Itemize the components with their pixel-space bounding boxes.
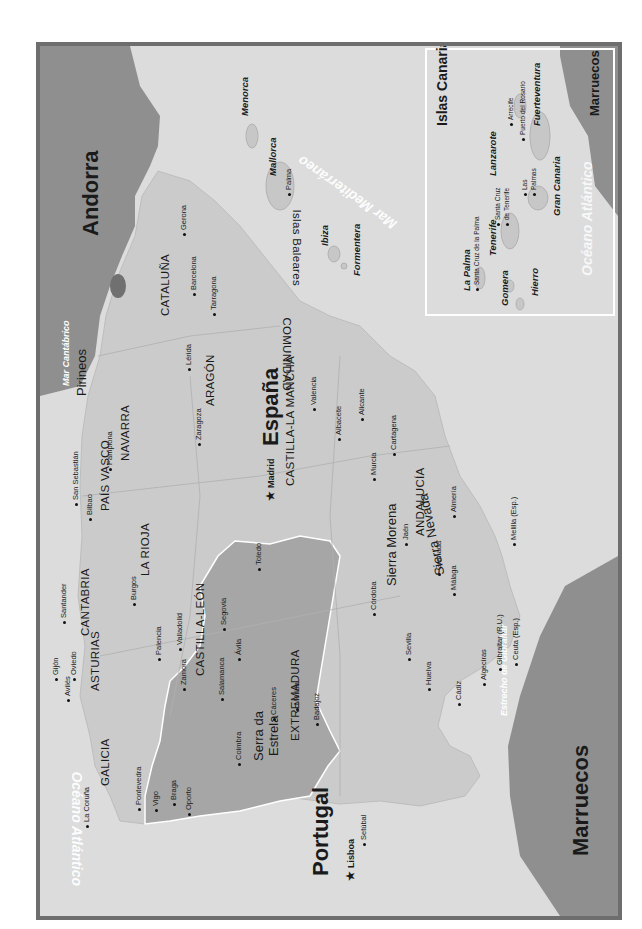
- city-puerto-del-rosario: Puerto del Rosario: [520, 81, 527, 141]
- region-la-rioja: LA RIOJA: [140, 523, 152, 576]
- city-setubal: Setúbal: [360, 815, 368, 846]
- region-aragon: ARAGÓN: [205, 354, 217, 406]
- region-cataluna: CATALUÑA: [160, 254, 172, 316]
- city-albacete: Albacete: [335, 406, 343, 441]
- island-formentera: Formentera: [352, 224, 362, 276]
- city-sevilla: Sevilla: [405, 633, 413, 661]
- city-segovia: Segovia: [220, 598, 228, 631]
- region-castilla-leon: CASTILLA-LEÓN: [195, 583, 207, 676]
- city-jaen: Jaén: [402, 524, 410, 546]
- city-algeciras: Algeciras: [480, 649, 488, 686]
- country-label-spain: España: [260, 368, 282, 446]
- city-oviedo: Oviedo: [70, 651, 78, 681]
- city-toledo: Toledo: [255, 543, 263, 571]
- city-alicante: Alicante: [358, 388, 366, 421]
- island-ibiza: Ibiza: [320, 225, 330, 246]
- region-asturias: ASTURIAS: [90, 631, 102, 691]
- city-ceuta: Ceuta (Esp.): [512, 618, 520, 666]
- city-valencia: Valencia: [310, 377, 318, 411]
- city-vigo: Vigo: [152, 791, 160, 812]
- city-almeria: Almería: [450, 486, 458, 518]
- city-palencia: Palencia: [155, 626, 163, 661]
- city-cadiz: Cádiz: [455, 681, 463, 706]
- mountain-serra-da: Serra da: [252, 711, 265, 761]
- sea-label-cantabrico: Mar Cantábrico: [62, 320, 71, 386]
- city-arrecife: Arrecife: [508, 98, 515, 126]
- country-label-portugal: Portugal: [310, 787, 332, 876]
- city-valladolid: Valladolid: [176, 613, 184, 651]
- city-murcia: Murcia: [370, 452, 378, 481]
- city-gerona: Gerona: [180, 205, 188, 236]
- map-frame: Mar Cantábrico Océano Atlántico Mar Medi…: [36, 42, 622, 920]
- region-galicia: GALICIA: [100, 739, 112, 786]
- city-cartagena: Cartagena: [390, 415, 398, 456]
- city-santa-cruz-tenerife-1: Santa Cruz: [495, 187, 502, 226]
- region-comunidad: COMUNIDAD: [280, 317, 292, 391]
- island-hierro: Hierro: [530, 268, 540, 296]
- city-coimbra: Coimbra: [235, 732, 243, 766]
- mountain-sierra-morena: Sierra Morena: [385, 504, 398, 586]
- capital-lisboa: Lisboa: [345, 839, 356, 881]
- country-label-andorra: Andorra: [80, 150, 102, 236]
- region-cantabria: CANTABRIA: [80, 568, 92, 636]
- city-las-palmas-1: Las: [522, 180, 529, 196]
- city-tarragona: Tarragona: [210, 276, 218, 316]
- city-badajoz: Badajoz: [313, 693, 321, 726]
- capital-madrid: Madrid: [265, 458, 276, 501]
- city-braga: Braga: [170, 780, 178, 806]
- label-islas-baleares: Islas Baleares: [290, 210, 302, 286]
- city-granada: Granada: [435, 541, 443, 576]
- country-label-marruecos-inset: Marruecos: [588, 50, 601, 116]
- island-fuerteventura: Fuerteventura: [532, 63, 542, 126]
- city-pamplona: Pamplona: [106, 431, 114, 471]
- island-lanzarote: Lanzarote: [488, 131, 498, 176]
- inset-title-canarias: Islas Canarias: [435, 46, 449, 126]
- city-bilbao: Bilbao: [86, 494, 94, 521]
- city-santa-cruz-tenerife-2: de Tenerife: [504, 188, 511, 226]
- city-zaragoza: Zaragoza: [195, 408, 203, 446]
- region-navarra: NAVARRA: [120, 405, 132, 461]
- city-zamora: Zamora: [180, 659, 188, 691]
- city-la-coruna: La Coruña: [83, 787, 91, 828]
- island-menorca: Menorca: [240, 77, 250, 116]
- city-merida: Mérida: [293, 682, 301, 711]
- city-san-sebastian: San Sebastián: [72, 451, 80, 506]
- city-santander: Santander: [60, 583, 68, 624]
- city-salamanca: Salamanca: [218, 657, 226, 701]
- city-santa-cruz-la-palma: Santa Cruz de la Palma: [474, 216, 481, 291]
- island-la-palma: La Palma: [462, 249, 472, 291]
- mountain-estrela: Estrela: [267, 716, 280, 756]
- island-gran-canaria: Gran Canaria: [552, 156, 562, 216]
- city-gibraltar: Gibraltar (R.U.): [496, 614, 504, 671]
- city-oporto: Oporto: [185, 787, 193, 816]
- island-mallorca: Mallorca: [268, 137, 278, 176]
- island-gomera: Gomera: [500, 270, 510, 306]
- mountain-pirineos: Pirineos: [75, 349, 88, 396]
- city-melilla: Melilla (Esp.): [510, 497, 518, 546]
- city-malaga: Málaga: [450, 565, 458, 596]
- city-pontevedra: Pontevedra: [135, 767, 143, 811]
- city-palma: Palma: [285, 169, 293, 196]
- city-lerida: Lérida: [185, 344, 193, 371]
- city-cordoba: Córdoba: [370, 581, 378, 616]
- city-gijon: Gijón: [52, 657, 60, 681]
- city-barcelona: Barcelona: [190, 256, 198, 296]
- city-avila: Ávila: [235, 639, 243, 661]
- city-burgos: Burgos: [130, 576, 138, 606]
- city-las-palmas-2: Palmas: [531, 168, 538, 196]
- map-canvas: Mar Cantábrico Océano Atlántico Mar Medi…: [40, 46, 618, 916]
- sea-label-atlantico-inset: Océano Atlántico: [580, 161, 594, 276]
- city-huelva: Huelva: [425, 662, 433, 691]
- country-label-marruecos: Marruecos: [570, 745, 592, 856]
- city-caceres: Cáceres: [270, 687, 278, 721]
